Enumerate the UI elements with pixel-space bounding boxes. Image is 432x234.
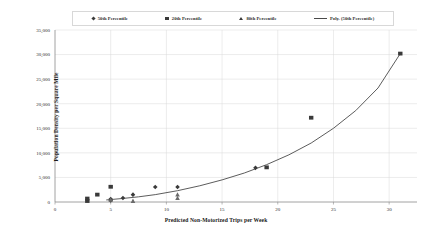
y-tick-label: 10,000 — [36, 151, 50, 157]
plot-area: 05,00010,00015,00020,00025,00030,00035,0… — [0, 0, 432, 234]
trendline — [106, 54, 400, 200]
gridlines — [55, 30, 417, 202]
data-point-square — [398, 52, 402, 56]
x-tick-label: 5 — [109, 207, 112, 212]
x-tick-label: 10 — [164, 207, 170, 212]
data-point-diamond — [175, 185, 180, 190]
axis-ticks: 05,00010,00015,00020,00025,00030,00035,0… — [36, 28, 392, 212]
x-tick-label: 30 — [387, 207, 393, 212]
y-tick-label: 20,000 — [36, 102, 50, 108]
x-tick-label: 0 — [54, 207, 57, 212]
axis-lines — [55, 30, 417, 202]
y-tick-label: 30,000 — [36, 52, 50, 58]
data-point-square — [95, 193, 99, 197]
data-point-diamond — [131, 192, 136, 197]
data-point-square — [264, 165, 268, 169]
y-tick-label: 35,000 — [36, 28, 50, 34]
data-point-diamond — [121, 196, 126, 201]
x-axis-title: Predicted Non-Motorized Trips per Week — [0, 217, 432, 223]
x-tick-label: 15 — [220, 207, 226, 212]
data-point-diamond — [153, 185, 158, 190]
x-tick-label: 25 — [331, 207, 337, 212]
chart-container: 50th Percentile 20th Percentile 80th Per… — [0, 0, 432, 234]
data-points — [85, 52, 402, 203]
y-tick-label: 5,000 — [39, 175, 51, 181]
plot-svg: 05,00010,00015,00020,00025,00030,00035,0… — [0, 0, 432, 234]
y-axis-title: Population Density per Square Mile — [53, 73, 59, 162]
y-tick-label: 0 — [48, 200, 51, 205]
y-tick-label: 15,000 — [36, 126, 50, 132]
data-point-square — [108, 185, 112, 189]
data-point-triangle — [131, 199, 136, 203]
data-point-square — [309, 116, 313, 120]
data-point-square — [85, 199, 89, 203]
y-tick-label: 25,000 — [36, 77, 50, 83]
x-tick-label: 20 — [275, 207, 281, 212]
trendline-path — [106, 54, 400, 200]
